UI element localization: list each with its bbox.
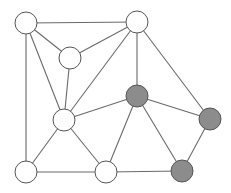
node-C <box>59 47 81 69</box>
edge-D-G <box>64 96 137 120</box>
node-H-highlighted <box>199 108 221 130</box>
edge-layer <box>26 22 210 172</box>
node-G-highlighted <box>126 85 148 107</box>
node-D <box>53 109 75 131</box>
node-E <box>15 161 37 183</box>
graph-diagram <box>0 0 231 193</box>
node-F <box>95 161 117 183</box>
edge-B-D <box>64 22 137 120</box>
edge-G-I <box>137 96 182 171</box>
node-I-highlighted <box>171 160 193 182</box>
edge-B-H <box>137 22 210 119</box>
node-A <box>15 12 37 34</box>
edge-A-B <box>26 22 137 23</box>
edge-F-G <box>106 96 137 172</box>
node-layer <box>15 11 221 183</box>
node-B <box>126 11 148 33</box>
